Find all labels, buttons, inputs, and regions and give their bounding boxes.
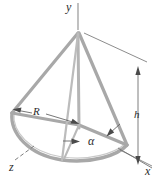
alpha-arrowhead-left — [72, 139, 81, 145]
alpha-arrowhead-right — [107, 128, 115, 136]
z-axis-line — [15, 146, 34, 160]
h-arrowhead-top — [135, 66, 140, 75]
axis-label-y: y — [66, 1, 71, 13]
slant-edge-left — [12, 33, 78, 113]
dimension-label-height: h — [134, 109, 140, 120]
axis-label-x: x — [145, 165, 150, 177]
cone-sector-figure: y x z R h α — [0, 0, 158, 181]
dimension-label-angle: α — [88, 135, 94, 147]
figure-canvas — [0, 0, 158, 181]
cone-axis — [78, 33, 79, 128]
h-leader-top — [84, 33, 147, 62]
axis-label-z: z — [9, 161, 14, 173]
dimension-label-radius: R — [33, 106, 40, 117]
base-radius-z-edge — [12, 113, 79, 125]
